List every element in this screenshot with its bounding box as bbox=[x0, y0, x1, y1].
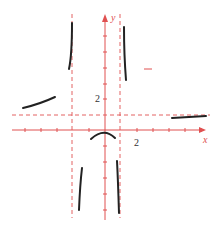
left-of-x-1-down bbox=[117, 161, 119, 213]
y-axis bbox=[102, 14, 108, 220]
x-axis-label: x bbox=[203, 134, 207, 145]
function-graph bbox=[0, 0, 221, 229]
left-of-x-minus-2-up bbox=[69, 23, 72, 69]
asymptotes bbox=[12, 14, 210, 218]
x-axis bbox=[12, 127, 206, 133]
y-tick-label-2: 2 bbox=[95, 93, 100, 104]
curve bbox=[23, 23, 206, 213]
x-tick-label-2: 2 bbox=[134, 137, 139, 148]
right-of-x-1-up bbox=[124, 27, 126, 80]
middle-hump bbox=[91, 133, 115, 139]
y-axis-label: y bbox=[111, 12, 115, 23]
right-of-x-minus-2-down bbox=[79, 168, 82, 210]
right-branch bbox=[172, 116, 206, 118]
left-branch bbox=[23, 97, 55, 108]
